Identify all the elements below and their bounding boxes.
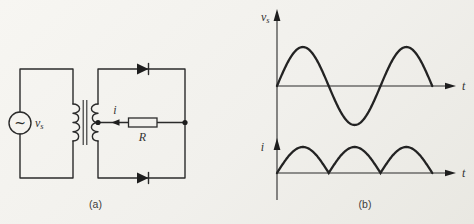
resistor-body [129,118,158,127]
figure-full-wave-rectifier: ~ vs [0,0,474,224]
vs-time-arrowhead-icon [445,83,456,90]
center-tap-node [95,120,100,125]
bottom-diode [137,173,149,184]
i-time-arrowhead-icon [445,170,456,177]
ac-source: ~ [9,112,31,134]
figure-canvas: ~ vs [0,0,474,224]
i-waveform-curve [277,147,432,173]
vs-time-label: t [462,79,466,93]
load-branch: R i [95,103,187,144]
right-node [182,120,187,125]
bottom-diode-triangle-icon [137,173,149,184]
i-axis-label: i [261,140,264,154]
vs-axis-label: vs [261,10,270,25]
panel-a-caption: (a) [89,198,102,210]
panel-b-caption: (b) [359,198,372,210]
i-time-label: t [462,166,466,180]
transformer-primary-coil [73,104,80,141]
vs-plot: vs t [261,9,466,125]
current-label: i [113,103,116,117]
ac-source-sine-icon: ~ [14,115,26,131]
i-axis-arrowhead-icon [274,138,281,150]
top-diode [137,64,149,75]
transformer [73,100,98,145]
vs-axis-arrowhead-icon [274,9,281,21]
circuit-panel-a: ~ vs [9,64,188,211]
top-diode-triangle-icon [137,64,149,75]
current-arrow-icon [112,119,120,125]
resistor-label: R [138,130,147,144]
source-voltage-label: vs [35,116,44,131]
primary-loop-wire [20,69,73,178]
primary-loop: ~ vs [9,69,73,178]
i-plot: i t [261,138,466,180]
waveform-panel-b: vs t i t (b) [261,9,466,210]
